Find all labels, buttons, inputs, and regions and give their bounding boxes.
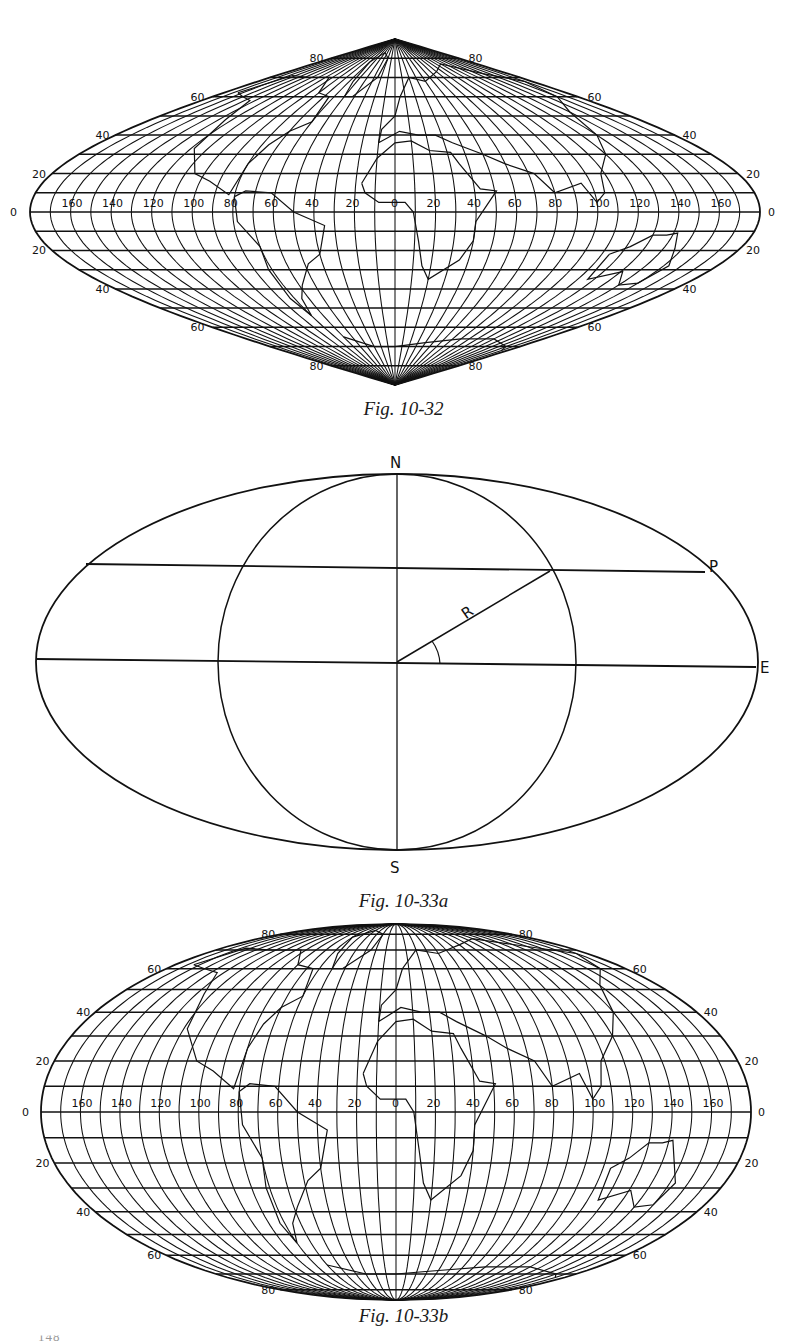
latitude-label: 0 [22,1106,29,1119]
label-E: E [760,659,769,677]
label-P: P [709,558,718,576]
latitude-label: 40 [683,129,697,142]
longitude-label: 100 [584,1097,605,1110]
longitude-label: 120 [143,197,164,210]
longitude-label: 40 [467,197,481,210]
latitude-label: 80 [310,360,324,373]
latitude-label: 60 [147,963,161,976]
parallel-line-through-P [86,564,705,572]
longitude-label: 160 [71,1097,92,1110]
label-S: S [390,859,400,877]
latitude-label: 60 [191,91,205,104]
longitude-label: 140 [663,1097,684,1110]
longitude-label: 140 [111,1097,132,1110]
longitude-label: 120 [629,197,650,210]
latitude-label: 40 [95,129,109,142]
latitude-label: 80 [519,928,533,941]
figure-caption-10-33a: Fig. 10-33a [0,890,807,912]
latitude-label: 60 [147,1249,161,1262]
latitude-label: 80 [519,1284,533,1297]
longitude-label: 40 [308,1097,322,1110]
latitude-label: 40 [76,1006,90,1019]
longitude-label: 140 [102,197,123,210]
latitude-label: 40 [95,283,109,296]
angle-arc [432,641,440,664]
figure-sinusoidal-map: 8080606040402020002020404060608080160140… [0,0,807,400]
latitude-label: 60 [633,963,647,976]
latitude-label: 80 [468,52,482,65]
latitude-label: 20 [32,168,46,181]
longitude-label: 60 [508,197,522,210]
longitude-label: 20 [345,197,359,210]
latitude-label: 20 [35,1055,49,1068]
longitude-label: 40 [466,1097,480,1110]
latitude-label: 20 [745,1055,759,1068]
longitude-label: 160 [62,197,83,210]
latitude-label: 20 [745,1157,759,1170]
label-N: N [390,454,401,472]
longitude-label: 20 [427,197,441,210]
graticule [30,39,760,385]
longitude-label: 80 [548,197,562,210]
latitude-label: 80 [468,360,482,373]
latitude-label: 40 [76,1206,90,1219]
longitude-label: 100 [190,1097,211,1110]
latitude-label: 60 [588,321,602,334]
longitude-label: 20 [348,1097,362,1110]
latitude-label: 0 [10,206,17,219]
graticule [41,924,751,1300]
longitude-label: 40 [305,197,319,210]
latitude-label: 60 [191,321,205,334]
latitude-label: 0 [768,206,775,219]
mollweide-map-graphic: 8080606040402020002020404060608080160140… [0,915,807,1305]
longitude-label: 140 [670,197,691,210]
figure-mollweide-construction: N S E P R [0,430,807,890]
page-number: 148 [38,1329,61,1343]
mollweide-construction-diagram: N S E P R [0,430,807,890]
figure-caption-10-33b: Fig. 10-33b [0,1305,807,1327]
latitude-label: 80 [261,928,275,941]
latitude-label: 60 [633,1249,647,1262]
latitude-label: 60 [588,91,602,104]
longitude-label: 0 [391,197,398,210]
equator-line [36,659,756,667]
longitude-label: 80 [545,1097,559,1110]
label-R: R [458,602,477,623]
longitude-label: 120 [624,1097,645,1110]
latitude-label: 40 [704,1206,718,1219]
longitude-label: 60 [264,197,278,210]
longitude-label: 60 [269,1097,283,1110]
latitude-label: 80 [310,52,324,65]
latitude-label: 40 [704,1006,718,1019]
longitude-label: 100 [183,197,204,210]
latitude-label: 0 [758,1106,765,1119]
longitude-label: 160 [710,197,731,210]
figure-caption-10-32: Fig. 10-32 [0,398,807,420]
latitude-label: 20 [746,168,760,181]
latitude-label: 20 [35,1157,49,1170]
figure-mollweide-map: 8080606040402020002020404060608080160140… [0,915,807,1305]
latitude-label: 40 [683,283,697,296]
longitude-label: 20 [426,1097,440,1110]
sinusoidal-map-graphic: 8080606040402020002020404060608080160140… [0,0,807,400]
latitude-label: 20 [32,244,46,257]
latitude-label: 20 [746,244,760,257]
latitude-label: 80 [261,1284,275,1297]
longitude-label: 60 [505,1097,519,1110]
longitude-label: 120 [150,1097,171,1110]
longitude-label: 160 [703,1097,724,1110]
